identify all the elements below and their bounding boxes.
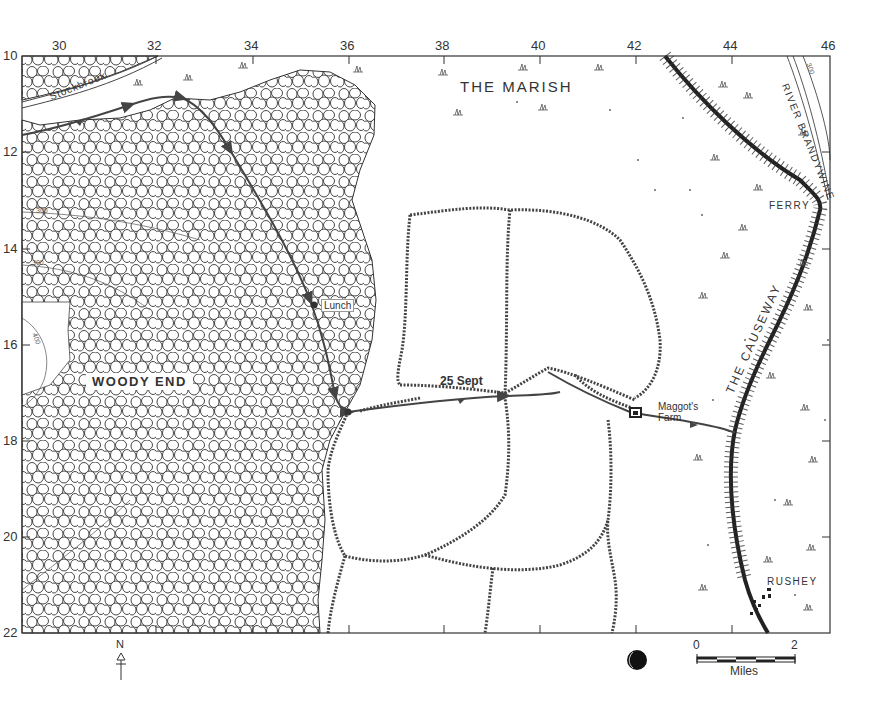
scale-unit-label: Miles — [730, 664, 758, 678]
maggots-farm-label-line2: Farm — [658, 412, 698, 423]
y-label-12: 12 — [3, 144, 17, 159]
lunch-label: Lunch — [321, 299, 354, 312]
x-label-34: 34 — [244, 38, 258, 53]
contour-label-300: 300 — [36, 207, 48, 214]
maggots-farm-label-line1: Maggot's — [658, 401, 698, 412]
scale-start-label: 0 — [693, 638, 700, 652]
x-label-42: 42 — [627, 38, 641, 53]
scale-bar — [697, 654, 795, 664]
y-label-20: 20 — [3, 529, 17, 544]
north-label: N — [116, 638, 124, 650]
moon-icon — [627, 650, 647, 670]
x-label-38: 38 — [435, 38, 449, 53]
ferry-label: FERRY — [769, 200, 810, 211]
rushey-label: RUSHEY — [767, 576, 818, 587]
x-label-46: 46 — [821, 38, 835, 53]
contour-label-300-b: 300 — [32, 259, 44, 266]
map-canvas — [0, 0, 895, 711]
y-label-16: 16 — [3, 337, 17, 352]
region-label-woody-end: WOODY END — [86, 373, 193, 390]
route-line-2 — [548, 372, 735, 432]
marsh-dots — [516, 101, 829, 596]
x-label-44: 44 — [723, 38, 737, 53]
y-label-22: 22 — [3, 625, 17, 640]
maggots-farm-label: Maggot's Farm — [658, 401, 698, 423]
x-label-36: 36 — [340, 38, 354, 53]
causeway-embankment — [665, 56, 820, 580]
rushey-settlement — [750, 588, 771, 615]
lunch-marker — [311, 302, 318, 309]
y-label-14: 14 — [3, 241, 17, 256]
y-label-18: 18 — [3, 433, 17, 448]
x-label-32: 32 — [147, 38, 161, 53]
x-label-40: 40 — [531, 38, 545, 53]
scale-end-label: 2 — [791, 638, 798, 652]
x-label-30: 30 — [52, 38, 66, 53]
hedgerows — [328, 208, 660, 633]
region-label-the-marish: THE MARISH — [460, 78, 573, 95]
y-label-10: 10 — [3, 48, 17, 63]
date-label: 25 Sept — [440, 374, 483, 388]
waypoint-marker — [345, 409, 352, 416]
north-arrow-icon — [116, 653, 126, 680]
